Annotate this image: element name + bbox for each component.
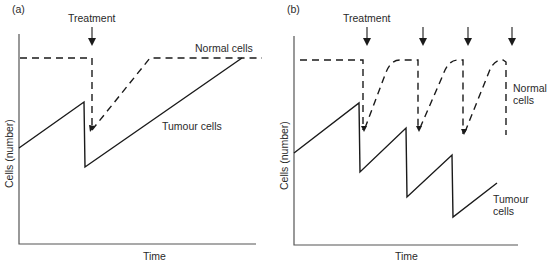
panel-b-treatment-arrow-icon-2 [419,27,427,46]
panel-a-treatment-label: Treatment [68,12,116,24]
panel-a-label: (a) [12,3,25,15]
panel-b: (b) Cells (number) Time Treatment Normal [278,3,547,262]
panel-a-axes [19,34,256,244]
panel-b-treatment-arrow-icon-1 [363,27,371,46]
panel-a-tumour-cells-label: Tumour cells [162,120,222,132]
panel-b-treatment-label: Treatment [343,12,391,24]
panel-b-treatment-arrow-icon-4 [508,27,516,46]
panel-b-normal-cells-label-line2: cells [513,94,534,106]
panel-b-tumour-cells-label-line2: cells [493,205,514,217]
panel-b-x-axis-label: Time [395,250,418,262]
panel-a-y-axis-label: Cells (number) [3,119,15,188]
panel-a-tumour-cells-line [19,58,242,167]
panel-b-label: (b) [287,3,300,15]
panel-a: (a) Cells (number) Time Treatment Normal… [3,3,262,262]
panel-b-normal-dip-arrowhead-icon-3 [461,129,467,135]
panel-b-treatment-arrow-icon-3 [464,27,472,46]
panel-b-normal-dip-arrowhead-icon-1 [361,126,367,132]
panel-b-normal-dip-arrowhead-icon-2 [416,126,422,132]
panel-a-normal-cells-label: Normal cells [195,42,253,54]
panel-b-normal-cells-label-line1: Normal [513,82,547,94]
treatment-diagram: (a) Cells (number) Time Treatment Normal… [0,0,551,268]
panel-a-x-axis-label: Time [143,250,166,262]
panel-b-tumour-cells-line [294,103,497,217]
panel-b-tumour-cells-label-line1: Tumour [493,193,529,205]
panel-a-treatment-arrow-icon [88,27,96,46]
panel-b-y-axis-label: Cells (number) [278,121,290,190]
